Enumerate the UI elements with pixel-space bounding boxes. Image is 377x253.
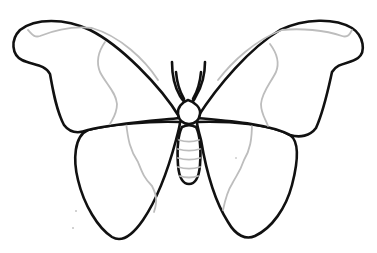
abdomen xyxy=(178,126,201,185)
right-forewing xyxy=(197,21,363,137)
butterfly-drawing xyxy=(0,0,377,253)
antennae xyxy=(172,62,205,104)
right-hindwing xyxy=(197,122,297,238)
right-forewing-outline xyxy=(197,21,363,137)
left-hindwing xyxy=(75,122,180,239)
head xyxy=(178,100,200,124)
speck xyxy=(72,227,74,229)
speck xyxy=(75,210,77,212)
right-hindwing-outline xyxy=(197,122,297,238)
abdomen-outline xyxy=(178,126,201,185)
left-hindwing-outline xyxy=(75,122,180,239)
speck xyxy=(235,157,236,158)
left-forewing xyxy=(13,21,180,132)
